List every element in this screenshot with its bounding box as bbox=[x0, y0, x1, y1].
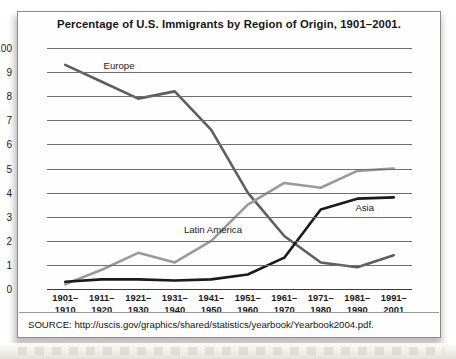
y-tick-label-8: 8 bbox=[0, 91, 12, 102]
x-tick-line: 1960 bbox=[230, 304, 267, 316]
plot-area: EuropeLatin AmericaAsia bbox=[47, 48, 412, 289]
x-tick-line: 1970 bbox=[266, 304, 303, 316]
x-tick-line: 1931– bbox=[157, 292, 194, 304]
series-label-asia: Asia bbox=[355, 202, 374, 213]
y-tick-label-3: 3 bbox=[0, 211, 12, 222]
gridline-4 bbox=[47, 193, 412, 194]
gridline-6 bbox=[47, 144, 412, 145]
series-label-europe: Europe bbox=[104, 60, 135, 71]
gridline-100 bbox=[47, 48, 412, 49]
scan-page: Percentage of U.S. Immigrants by Region … bbox=[0, 0, 456, 359]
x-tick-line: 1901– bbox=[47, 292, 84, 304]
gridline-2 bbox=[47, 241, 412, 242]
x-tick-line: 1921– bbox=[120, 292, 157, 304]
x-tick-line: 2001 bbox=[376, 304, 413, 316]
gridline-9 bbox=[47, 72, 412, 73]
x-axis-tick-labels: 1901–19101911–19201921–19301931–19401941… bbox=[47, 292, 412, 318]
x-tick-line: 1911– bbox=[84, 292, 121, 304]
scan-smudge-band bbox=[0, 343, 456, 359]
x-tick-line: 1961– bbox=[266, 292, 303, 304]
gridline-7 bbox=[47, 120, 412, 121]
source-divider bbox=[19, 312, 439, 313]
x-tick-line: 1940 bbox=[157, 304, 194, 316]
gridline-5 bbox=[47, 169, 412, 170]
x-tick-line: 1990 bbox=[339, 304, 376, 316]
y-tick-label-2: 2 bbox=[0, 235, 12, 246]
x-tick-line: 1950 bbox=[193, 304, 230, 316]
x-tick-line: 1971– bbox=[303, 292, 340, 304]
y-tick-label-100: 100 bbox=[0, 43, 12, 54]
x-tick-line: 1980 bbox=[303, 304, 340, 316]
gridline-1 bbox=[47, 265, 412, 266]
series-line-asia bbox=[65, 197, 394, 281]
x-tick-line: 1981– bbox=[339, 292, 376, 304]
y-tick-label-0: 0 bbox=[0, 284, 12, 295]
y-tick-label-6: 6 bbox=[0, 139, 12, 150]
chart-title: Percentage of U.S. Immigrants by Region … bbox=[18, 18, 440, 30]
x-tick-line: 1910 bbox=[47, 304, 84, 316]
x-tick-line: 1951– bbox=[230, 292, 267, 304]
series-label-latin-america: Latin America bbox=[184, 224, 242, 235]
x-tick-line: 1920 bbox=[84, 304, 121, 316]
y-tick-label-7: 7 bbox=[0, 115, 12, 126]
source-note: SOURCE: http://uscis.gov/graphics/shared… bbox=[28, 319, 374, 330]
gridline-0 bbox=[47, 289, 412, 290]
gridline-3 bbox=[47, 217, 412, 218]
chart-figure: Percentage of U.S. Immigrants by Region … bbox=[17, 11, 441, 338]
x-tick-line: 1991– bbox=[376, 292, 413, 304]
x-tick-line: 1941– bbox=[193, 292, 230, 304]
y-tick-label-5: 5 bbox=[0, 163, 12, 174]
y-axis-tick-labels: 1009876543210 bbox=[0, 48, 12, 289]
y-tick-label-1: 1 bbox=[0, 259, 12, 270]
gridline-8 bbox=[47, 96, 412, 97]
x-tick-line: 1930 bbox=[120, 304, 157, 316]
y-tick-label-9: 9 bbox=[0, 67, 12, 78]
y-tick-label-4: 4 bbox=[0, 187, 12, 198]
